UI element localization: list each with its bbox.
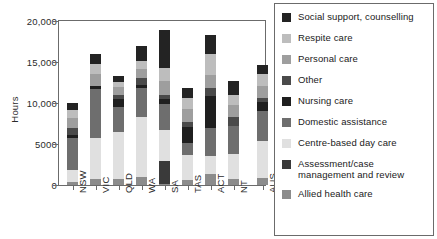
bar-tas bbox=[182, 88, 193, 185]
x-tick-mark bbox=[165, 186, 166, 190]
bar-segment bbox=[257, 86, 268, 97]
bar-qld bbox=[113, 76, 124, 185]
x-tick-label: WA bbox=[146, 178, 157, 193]
x-tick-label: TAS bbox=[192, 175, 203, 193]
y-tick-label: 10,000 bbox=[0, 98, 57, 109]
legend-item[interactable]: Allied health care bbox=[282, 188, 428, 201]
legend-item[interactable]: Social support, counselling bbox=[282, 11, 428, 24]
bar-segment bbox=[136, 117, 147, 177]
y-tick-label: 20,000 bbox=[0, 16, 57, 27]
bar-segment bbox=[228, 95, 239, 105]
x-tick-label: VIC bbox=[100, 177, 111, 193]
plot-region: Hours 0500010,00015,00020,000 NSWVICQLDW… bbox=[0, 0, 272, 239]
bar-segment bbox=[228, 117, 239, 126]
bar-act bbox=[205, 35, 216, 185]
bar-segment bbox=[228, 81, 239, 95]
legend-item[interactable]: Respite care bbox=[282, 32, 428, 45]
bar-segment bbox=[205, 128, 216, 157]
bar-segment bbox=[159, 30, 170, 67]
legend-label: Social support, counselling bbox=[298, 11, 414, 22]
bar-segment bbox=[257, 102, 268, 111]
legend-swatch-icon bbox=[282, 13, 291, 22]
bar-segment bbox=[205, 75, 216, 88]
bar-segment bbox=[257, 111, 268, 141]
bar-sa bbox=[159, 30, 170, 185]
legend-swatch-icon bbox=[282, 34, 291, 43]
legend-item[interactable]: Assessment/case management and review bbox=[282, 158, 428, 180]
bar-segment bbox=[228, 154, 239, 179]
legend-item[interactable]: Centre-based day care bbox=[282, 137, 428, 150]
legend-label: Respite care bbox=[298, 32, 353, 43]
bar-segment bbox=[159, 81, 170, 95]
bar-segment bbox=[136, 46, 147, 61]
bar-segment bbox=[205, 156, 216, 174]
legend-swatch-icon bbox=[282, 97, 291, 106]
bar-aus bbox=[257, 65, 268, 185]
legend-swatch-icon bbox=[282, 160, 291, 169]
legend-label: Assessment/case management and review bbox=[298, 158, 428, 180]
bar-segment bbox=[113, 99, 124, 106]
bar-segment bbox=[90, 54, 101, 64]
legend-swatch-icon bbox=[282, 190, 291, 199]
x-tick-label: NT bbox=[238, 180, 249, 193]
legend-item[interactable]: Nursing care bbox=[282, 95, 428, 108]
legend-item[interactable]: Domestic assistance bbox=[282, 116, 428, 129]
x-tick-label: SA bbox=[169, 180, 180, 193]
x-tick-mark bbox=[142, 186, 143, 190]
bar-segment bbox=[90, 74, 101, 86]
x-tick-label: NSW bbox=[77, 170, 88, 193]
bar-segment bbox=[205, 35, 216, 54]
bar-segment bbox=[136, 88, 147, 117]
x-tick-mark bbox=[234, 186, 235, 190]
legend-swatch-icon bbox=[282, 139, 291, 148]
legend-swatch-icon bbox=[282, 76, 291, 85]
bar-nt bbox=[228, 81, 239, 185]
x-tick-mark bbox=[119, 186, 120, 190]
legend-item[interactable]: Other bbox=[282, 74, 428, 87]
legend-label: Domestic assistance bbox=[298, 116, 387, 127]
bar-wa bbox=[136, 46, 147, 185]
plot-area bbox=[58, 20, 266, 186]
bar-segment bbox=[67, 138, 78, 170]
bar-segment bbox=[205, 54, 216, 75]
bar-segment bbox=[205, 88, 216, 96]
bar-segment bbox=[67, 128, 78, 135]
bar-segment bbox=[182, 143, 193, 155]
x-tick-mark bbox=[96, 186, 97, 190]
x-tick-label: QLD bbox=[123, 173, 134, 193]
legend-label: Other bbox=[298, 74, 322, 85]
y-tick-label: 15,000 bbox=[0, 57, 57, 68]
bar-segment bbox=[205, 96, 216, 128]
legend-swatch-icon bbox=[282, 55, 291, 64]
bar-segment bbox=[67, 110, 78, 118]
legend-swatch-icon bbox=[282, 118, 291, 127]
y-axis-label: Hours bbox=[9, 80, 20, 140]
bar-segment bbox=[182, 109, 193, 121]
legend-item[interactable]: Personal care bbox=[282, 53, 428, 66]
x-tick-label: ACT bbox=[215, 173, 226, 193]
x-tick-mark bbox=[211, 186, 212, 190]
bar-segment bbox=[159, 104, 170, 130]
chart-legend: Social support, counsellingRespite careP… bbox=[274, 3, 434, 236]
x-tick-mark bbox=[263, 186, 264, 190]
bar-segment bbox=[228, 105, 239, 117]
stacked-bar-chart-figure: Hours 0500010,00015,00020,000 NSWVICQLDW… bbox=[0, 0, 437, 239]
x-tick-mark bbox=[188, 186, 189, 190]
bar-segment bbox=[228, 126, 239, 154]
bar-segment bbox=[182, 98, 193, 109]
legend-label: Centre-based day care bbox=[298, 137, 397, 148]
bar-segment bbox=[182, 127, 193, 143]
legend-label: Allied health care bbox=[298, 188, 373, 199]
bar-segment bbox=[182, 88, 193, 97]
bar-segment bbox=[90, 138, 101, 179]
x-tick-mark bbox=[73, 186, 74, 190]
bar-segment bbox=[90, 64, 101, 75]
bar-segment bbox=[159, 130, 170, 161]
bar-vic bbox=[90, 54, 101, 185]
bar-segment bbox=[136, 61, 147, 69]
bar-segment bbox=[257, 74, 268, 87]
y-tick-label: 0 bbox=[0, 180, 57, 191]
bar-segment bbox=[257, 65, 268, 74]
bar-segment bbox=[113, 87, 124, 94]
bar-segment bbox=[113, 107, 124, 132]
